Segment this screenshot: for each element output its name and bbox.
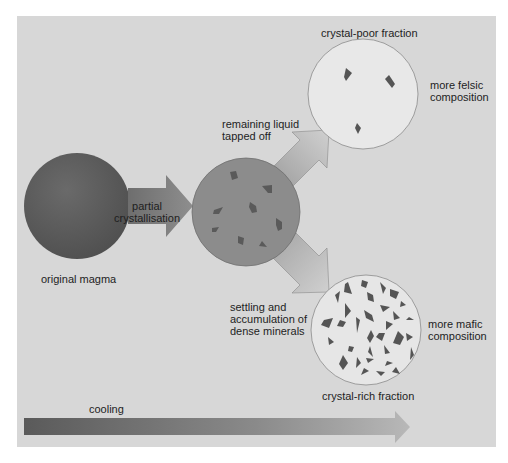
label-crystal-poor-fraction: crystal-poor fraction xyxy=(321,27,418,39)
label-remaining-liquid: remaining liquid tapped off xyxy=(222,118,299,142)
crystal-rich-fraction-circle xyxy=(311,275,421,385)
partially-crystallised-magma-circle xyxy=(192,158,300,266)
cooling-arrow xyxy=(24,411,410,443)
crystal-poor-fraction-circle xyxy=(308,39,418,149)
fractional-crystallisation-diagram xyxy=(0,0,508,463)
label-partial-crystallisation: partial crystallisation xyxy=(114,200,180,224)
label-cooling: cooling xyxy=(89,403,124,415)
label-more-felsic: more felsic composition xyxy=(430,79,489,103)
label-settling: settling and accumulation of dense miner… xyxy=(230,301,307,337)
label-original-magma: original magma xyxy=(41,273,116,285)
label-more-mafic: more mafic composition xyxy=(428,318,487,342)
label-crystal-rich-fraction: crystal-rich fraction xyxy=(322,390,414,402)
